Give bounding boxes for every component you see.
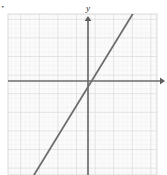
graph-figure: y • [0, 0, 167, 175]
y-axis-label: y [85, 3, 90, 13]
coordinate-plane-svg: y • [0, 0, 167, 175]
